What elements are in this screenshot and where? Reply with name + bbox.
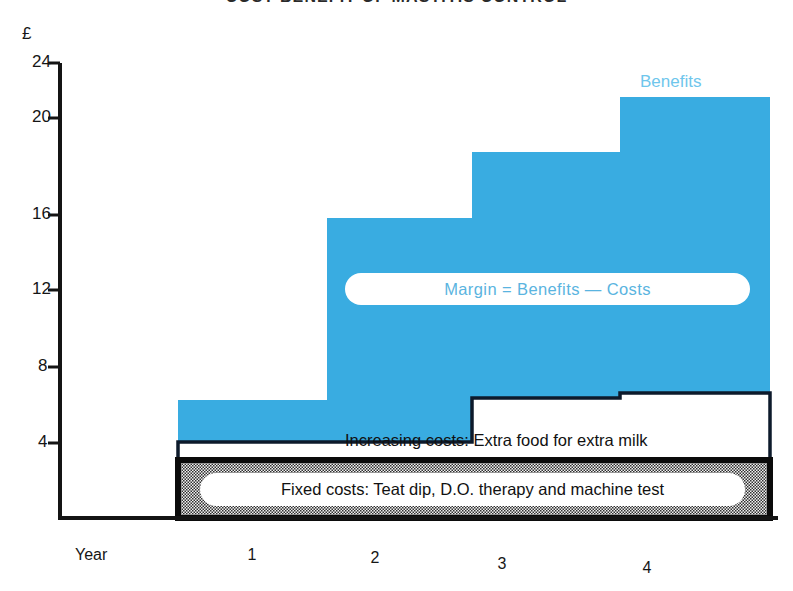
y-tick-label-4: 4	[38, 432, 47, 452]
series-label-benefits: Benefits	[640, 72, 701, 92]
y-tick-label-20: 20	[32, 107, 51, 127]
chart-figure: COST BENEFIT OF MASTITIS CONTROL £	[0, 0, 793, 591]
y-tick-label-16: 16	[32, 204, 51, 224]
y-tick-label-12: 12	[32, 279, 51, 299]
x-tick-label-1: 1	[232, 546, 272, 564]
x-tick-label-3: 3	[482, 555, 522, 573]
margin-formula-pill: Margin = Benefits — Costs	[345, 273, 750, 305]
margin-formula-text: Margin = Benefits — Costs	[444, 280, 651, 299]
x-axis-title: Year	[75, 546, 107, 564]
increasing-costs-label: Increasing costs: Extra food for extra m…	[345, 431, 648, 450]
y-tick-label-24: 24	[32, 52, 51, 72]
x-tick-label-2: 2	[355, 549, 395, 567]
fixed-costs-text: Fixed costs: Teat dip, D.O. therapy and …	[281, 480, 664, 499]
x-tick-label-4: 4	[627, 559, 667, 577]
y-tick-label-8: 8	[38, 356, 47, 376]
fixed-costs-pill: Fixed costs: Teat dip, D.O. therapy and …	[200, 473, 745, 506]
